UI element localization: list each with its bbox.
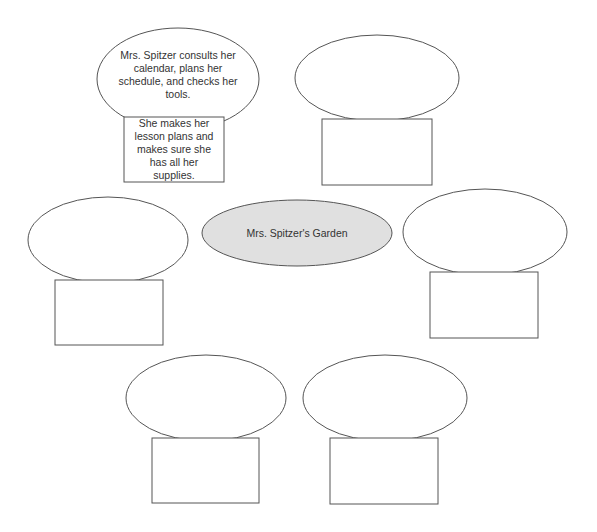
- node-top-left-box-text: She makes her lesson plans and makes sur…: [128, 120, 220, 178]
- node-middle-left-box-text: [59, 283, 159, 342]
- node-bottom-left-oval-text: [140, 375, 272, 421]
- diagram-canvas: Mrs. Spitzer's Garden Mrs. Spitzer consu…: [0, 0, 597, 532]
- node-middle-right-oval-text: [418, 209, 552, 255]
- node-top-right-oval-text: [310, 55, 444, 101]
- diagram-shapes: [0, 0, 597, 532]
- node-bottom-right-box-text: [334, 441, 434, 501]
- node-bottom-left-box-text: [156, 441, 255, 500]
- node-top-left-oval-text: Mrs. Spitzer consults her calendar, plan…: [117, 44, 239, 106]
- center-label: Mrs. Spitzer's Garden: [202, 222, 392, 244]
- node-top-right-box-text: [326, 122, 428, 182]
- node-middle-right-box-text: [434, 275, 534, 335]
- node-bottom-right-oval-text: [318, 375, 452, 421]
- node-middle-left-oval-text: [42, 217, 174, 263]
